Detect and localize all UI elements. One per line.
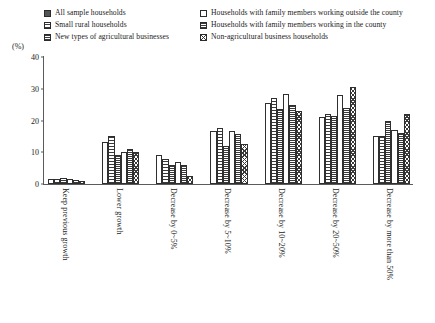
- bar-cluster: [319, 57, 356, 184]
- bar-cluster: [373, 57, 410, 184]
- bar-cluster: [210, 57, 247, 184]
- bar-cluster: [156, 57, 193, 184]
- bar-cluster: [102, 57, 139, 184]
- legend-label: All sample households: [55, 7, 126, 19]
- x-axis-labels: Keep previous growthLower growthDecrease…: [44, 186, 412, 318]
- bar: [296, 111, 302, 184]
- bar: [79, 181, 85, 184]
- x-axis-category-label: Keep previous growth: [61, 188, 70, 261]
- legend-label: New types of agricultural businesses: [55, 31, 169, 43]
- bar-chart: All sample households Households with fa…: [0, 0, 435, 323]
- legend-item-all-sample-households: All sample households: [44, 7, 194, 19]
- legend-item-new-agricultural-businesses: New types of agricultural businesses: [44, 31, 194, 43]
- legend-label: Non-agricultural business households: [211, 31, 328, 43]
- legend-label: Households with family members working o…: [211, 7, 403, 19]
- bar: [404, 114, 410, 184]
- x-axis-category-label: Decrease by 20~50%: [331, 188, 340, 258]
- legend-item-working-outside-county: Households with family members working o…: [200, 7, 434, 19]
- y-axis-unit-label: (%): [12, 42, 24, 51]
- bar: [133, 152, 139, 184]
- vertical-dashed-square-swatch: [44, 22, 51, 29]
- x-axis-category-label: Decrease by 0~5%: [169, 188, 178, 250]
- legend-item-non-agricultural-business: Non-agricultural business households: [200, 31, 434, 43]
- bar-clusters: [44, 57, 412, 184]
- cross-hatch-square-swatch: [200, 34, 207, 41]
- x-axis-category-label: Decrease by 10~20%: [277, 188, 286, 258]
- bar: [350, 87, 356, 184]
- x-axis-category-label: Decrease by 5~10%: [223, 188, 232, 254]
- chart-legend: All sample households Households with fa…: [44, 7, 434, 43]
- bar-cluster: [48, 57, 85, 184]
- legend-item-small-rural-households: Small rural households: [44, 19, 194, 31]
- x-axis-category-label: Decrease by more than 50%: [385, 188, 394, 280]
- plot-area: 010203040: [44, 57, 412, 184]
- legend-label: Households with family members working i…: [211, 19, 386, 31]
- empty-square-swatch: [200, 10, 207, 17]
- horizontal-line-square-swatch: [200, 22, 207, 29]
- bar: [187, 176, 193, 184]
- legend-item-working-in-county: Households with family members working i…: [200, 19, 434, 31]
- legend-label: Small rural households: [55, 19, 127, 31]
- solid-square-swatch: [44, 10, 51, 17]
- bar-cluster: [265, 57, 302, 184]
- horizontal-dotted-square-swatch: [44, 34, 51, 41]
- x-axis-line: [43, 184, 413, 185]
- x-axis-category-label: Lower growth: [115, 188, 124, 235]
- bar: [241, 144, 247, 184]
